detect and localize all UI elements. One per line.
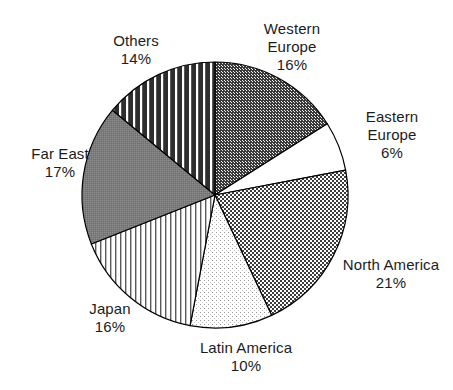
- pie-label-others: Others 14%: [88, 32, 184, 68]
- pie-slices: [82, 62, 348, 328]
- pie-label-far-east: Far East 17%: [10, 145, 110, 181]
- pie-label-north-america: North America 21%: [329, 256, 453, 292]
- pie-label-eastern-europe: Eastern Europe 6%: [344, 108, 440, 162]
- pie-label-western-europe: Western Europe 16%: [244, 20, 340, 74]
- pie-label-japan: Japan 16%: [72, 300, 148, 336]
- pie-label-latin-america: Latin America 10%: [183, 339, 309, 375]
- pie-chart: Western Europe 16% Eastern Europe 6% Nor…: [0, 0, 453, 390]
- pie-chart-canvas: [0, 0, 453, 390]
